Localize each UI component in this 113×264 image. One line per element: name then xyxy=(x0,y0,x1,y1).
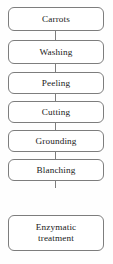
flowchart-node-enzymatic-treatment: Enzymatic treatment xyxy=(8,215,104,251)
connector-line xyxy=(55,152,56,159)
connector-line xyxy=(55,64,56,72)
flowchart-node-peeling: Peeling xyxy=(8,72,104,94)
process-flowchart: Carrots Washing Peeling Cutting Groundin… xyxy=(0,0,113,264)
flowchart-node-cutting: Cutting xyxy=(8,101,104,123)
node-label: Washing xyxy=(38,47,75,58)
node-label: Cutting xyxy=(40,107,73,118)
node-label: Grounding xyxy=(33,136,78,147)
node-label: Peeling xyxy=(40,78,73,89)
flowchart-node-grounding: Grounding xyxy=(8,130,104,152)
flowchart-node-washing: Washing xyxy=(8,40,104,64)
connector-line xyxy=(55,181,56,188)
connector-line xyxy=(55,94,56,101)
connector-line xyxy=(55,31,56,40)
flowchart-node-blanching: Blanching xyxy=(8,159,104,181)
node-label: Carrots xyxy=(40,14,72,25)
node-label: Enzymatic treatment xyxy=(34,222,79,244)
node-label: Blanching xyxy=(34,165,77,176)
flowchart-node-carrots: Carrots xyxy=(8,7,104,31)
connector-line xyxy=(55,123,56,130)
